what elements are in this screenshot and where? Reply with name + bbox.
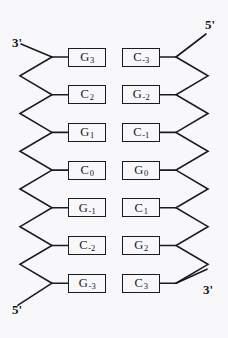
base-subscript: -1: [89, 207, 96, 216]
base-letter: G: [133, 88, 142, 101]
base-box-right-3: G0: [122, 161, 160, 180]
base-subscript: 2: [144, 244, 148, 253]
right-backbone-zigzag: [176, 57, 208, 283]
base-box-right-5: G2: [122, 236, 160, 255]
dna-duplex-figure: G3C-3C2G-2G1C-1C0G0G-1C1C-2G2G-3C3 3' 5'…: [0, 0, 228, 338]
base-letter: C: [135, 277, 144, 290]
base-box-right-1: G-2: [122, 85, 160, 104]
base-subscript: 2: [90, 93, 94, 102]
backbone-layer: [0, 0, 228, 338]
base-letter: C: [79, 239, 88, 252]
base-letter: C: [133, 51, 142, 64]
base-letter: G: [80, 126, 89, 139]
base-subscript: -3: [89, 282, 96, 291]
base-letter: G: [79, 277, 88, 290]
base-box-left-1: C2: [68, 85, 106, 104]
base-letter: C: [135, 202, 144, 215]
base-box-left-2: G1: [68, 123, 106, 142]
base-box-right-0: C-3: [122, 48, 160, 67]
base-letter: G: [134, 164, 143, 177]
base-subscript: -2: [88, 244, 95, 253]
terminus-top-right: 5': [205, 18, 215, 31]
base-box-left-5: C-2: [68, 236, 106, 255]
left-bottom-terminal-line: [18, 283, 52, 305]
base-subscript: -2: [143, 93, 150, 102]
base-box-right-4: C1: [122, 198, 160, 217]
base-subscript: 1: [144, 207, 148, 216]
terminus-bottom-left: 5': [12, 303, 22, 316]
base-box-left-0: G3: [68, 48, 106, 67]
base-box-right-2: C-1: [122, 123, 160, 142]
left-backbone-zigzag: [20, 57, 52, 283]
base-letter: C: [81, 88, 90, 101]
base-box-left-4: G-1: [68, 198, 106, 217]
base-subscript: 0: [90, 169, 94, 178]
base-box-right-6: C3: [122, 274, 160, 293]
left-top-terminal-line: [21, 44, 52, 57]
terminus-top-left: 3': [12, 36, 22, 49]
base-subscript: 1: [90, 131, 94, 140]
base-letter: G: [80, 51, 89, 64]
terminus-bottom-right: 3': [203, 283, 213, 296]
base-letter: G: [79, 202, 88, 215]
base-box-left-3: C0: [68, 161, 106, 180]
base-subscript: -3: [142, 56, 149, 65]
right-strand-backbone: [160, 34, 208, 283]
base-subscript: -1: [142, 131, 149, 140]
base-subscript: 0: [144, 169, 148, 178]
right-top-terminal-line: [176, 34, 206, 57]
base-letter: C: [81, 164, 90, 177]
base-subscript: 3: [144, 282, 148, 291]
base-subscript: 3: [90, 56, 94, 65]
base-box-left-6: G-3: [68, 274, 106, 293]
base-letter: G: [134, 239, 143, 252]
base-letter: C: [133, 126, 142, 139]
left-strand-backbone: [18, 44, 68, 305]
